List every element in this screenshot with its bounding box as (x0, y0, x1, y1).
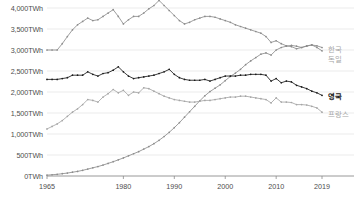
series-point-0 (184, 23, 186, 25)
series-point-0 (245, 27, 247, 29)
y-axis-tick-label: 1,000TWh (11, 130, 43, 139)
series-point-3 (199, 100, 201, 102)
series-point-0 (82, 21, 84, 23)
series-point-2 (316, 92, 318, 94)
series-point-0 (321, 50, 323, 52)
series-point-3 (87, 99, 89, 101)
series-point-3 (153, 90, 155, 92)
series-point-2 (275, 78, 277, 80)
series-label-영국: 영국 (328, 90, 342, 101)
line-chart: 0TWh500TWh1,000TWh1,500TWh2,000TWh2,500T… (0, 0, 362, 212)
series-point-1 (209, 91, 211, 93)
series-point-3 (168, 97, 170, 99)
series-point-2 (184, 79, 186, 81)
series-point-0 (270, 42, 272, 44)
series-point-2 (153, 74, 155, 76)
series-point-1 (112, 161, 114, 163)
series-point-1 (301, 47, 303, 49)
series-point-1 (46, 174, 48, 176)
series-point-3 (82, 104, 84, 106)
series-point-0 (112, 9, 114, 11)
series-point-2 (296, 84, 298, 86)
series-point-0 (128, 19, 130, 21)
series-point-2 (138, 77, 140, 79)
x-axis-tick-label: 1980 (115, 182, 131, 191)
series-point-0 (163, 5, 165, 7)
series-point-3 (275, 97, 277, 99)
series-point-0 (102, 16, 104, 18)
series-point-3 (123, 89, 125, 91)
series-point-0 (199, 17, 201, 19)
series-point-2 (46, 79, 48, 81)
x-axis-tick-label: 2019 (314, 182, 330, 191)
series-point-2 (112, 69, 114, 71)
series-point-3 (97, 101, 99, 103)
series-point-0 (153, 5, 155, 7)
series-point-2 (219, 77, 221, 79)
series-point-0 (260, 32, 262, 34)
series-point-3 (67, 116, 69, 118)
series-point-2 (199, 79, 201, 81)
series-point-1 (235, 72, 237, 74)
series-point-1 (77, 171, 79, 173)
series-point-2 (158, 73, 160, 75)
series-point-3 (260, 98, 262, 100)
series-point-1 (219, 84, 221, 86)
series-point-3 (133, 91, 135, 93)
series-point-1 (143, 148, 145, 150)
series-point-1 (204, 95, 206, 97)
series-point-2 (51, 79, 53, 81)
series-point-1 (189, 111, 191, 113)
series-point-1 (51, 174, 53, 176)
series-point-0 (204, 16, 206, 18)
series-point-2 (311, 90, 313, 92)
series-point-1 (184, 116, 186, 118)
series-point-1 (153, 143, 155, 145)
series-point-1 (306, 45, 308, 47)
series-point-2 (224, 75, 226, 77)
series-point-2 (102, 73, 104, 75)
series-point-3 (280, 101, 282, 103)
series-point-1 (82, 169, 84, 171)
series-point-2 (56, 79, 58, 81)
series-point-1 (250, 60, 252, 62)
series-point-1 (61, 173, 63, 175)
series-point-2 (67, 77, 69, 79)
series-point-3 (204, 100, 206, 102)
series-point-3 (128, 95, 130, 97)
series-point-1 (173, 127, 175, 129)
series-point-2 (123, 71, 125, 73)
series-point-0 (87, 17, 89, 19)
series-point-3 (265, 99, 267, 101)
series-point-2 (209, 80, 211, 82)
series-point-3 (270, 102, 272, 104)
series-point-2 (61, 78, 63, 80)
series-point-3 (250, 96, 252, 98)
series-point-3 (51, 126, 53, 128)
series-point-1 (286, 45, 288, 47)
series-point-0 (107, 12, 109, 14)
series-point-2 (82, 74, 84, 76)
x-axis-tick-label: 1990 (166, 182, 182, 191)
series-label-프랑스: 프랑스 (328, 108, 349, 119)
series-point-3 (46, 128, 48, 130)
series-point-1 (260, 53, 262, 55)
series-point-1 (97, 166, 99, 168)
series-line-1 (47, 45, 322, 175)
series-point-2 (306, 88, 308, 90)
series-point-3 (117, 92, 119, 94)
series-point-2 (240, 74, 242, 76)
series-point-3 (214, 99, 216, 101)
x-axis-tick-label: 2010 (268, 182, 284, 191)
series-point-0 (77, 24, 79, 26)
series-point-0 (255, 31, 257, 33)
y-axis-tick-label: 2,500TWh (11, 67, 43, 76)
series-point-1 (107, 163, 109, 165)
series-point-3 (179, 100, 181, 102)
series-point-3 (77, 108, 79, 110)
series-point-3 (224, 97, 226, 99)
series-point-0 (194, 19, 196, 21)
series-point-1 (138, 151, 140, 153)
series-point-1 (117, 159, 119, 161)
y-axis-tick-label: 4,000TWh (11, 4, 43, 13)
